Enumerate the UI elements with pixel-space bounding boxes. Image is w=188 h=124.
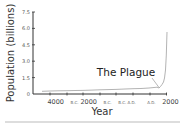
x-tick-bc-ad: B.C. A.D.: [118, 100, 136, 105]
y-tick-0: 0: [27, 91, 30, 97]
plague-annotation: The Plague: [96, 66, 155, 78]
plague-pointer: [152, 78, 159, 88]
x-axis-title: Year: [90, 106, 113, 117]
y-tick-6-0: 6.0: [22, 25, 30, 31]
x-tick-4000bc: 4000 B.C.: [47, 89, 78, 108]
population-chart: Population (billions) 7.5 6.0 4.5 3.0 1.…: [0, 0, 188, 124]
y-axis: 7.5 6.0 4.5 3.0 1.5 0: [22, 9, 35, 97]
y-tick-4-5: 4.5: [22, 42, 30, 48]
y-tick-7-5: 7.5: [22, 9, 30, 15]
y-tick-1-5: 1.5: [22, 75, 30, 81]
y-tick-3-0: 3.0: [22, 58, 30, 64]
population-line: [42, 32, 167, 91]
x-tick-2000ad: A.D. 2000: [147, 89, 178, 108]
y-axis-title: Population (billions): [5, 4, 16, 103]
